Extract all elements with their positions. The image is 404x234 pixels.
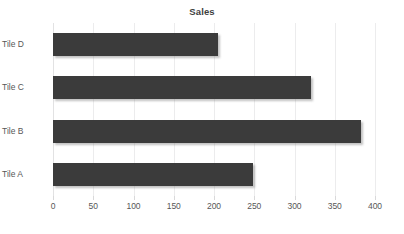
x-axis-label-350: 350: [328, 201, 342, 211]
tick-mark-350: [335, 196, 336, 200]
tick-mark-300: [295, 196, 296, 200]
y-axis-label-tile-c: Tile C: [2, 82, 48, 92]
bar-row: [53, 23, 375, 66]
bar-tile-c[interactable]: [53, 76, 311, 99]
x-axis-tick-labels: 050100150200250300350400: [0, 201, 404, 217]
x-axis-label-200: 200: [207, 201, 221, 211]
sales-bar-chart: Sales Tile DTile CTile BTile A 050100150…: [0, 0, 404, 234]
x-axis-label-400: 400: [368, 201, 382, 211]
y-axis-category-labels: Tile DTile CTile BTile A: [0, 23, 48, 196]
gridline-400: [375, 23, 376, 196]
chart-title: Sales: [0, 6, 404, 17]
bar-tile-a[interactable]: [53, 163, 253, 186]
y-axis-label-tile-b: Tile B: [2, 126, 48, 136]
plot-area: [53, 23, 375, 196]
tick-mark-50: [93, 196, 94, 200]
x-axis-tick-marks: [53, 196, 375, 202]
bar-row: [53, 153, 375, 196]
x-axis-label-300: 300: [287, 201, 301, 211]
x-axis-label-0: 0: [51, 201, 56, 211]
tick-mark-200: [214, 196, 215, 200]
bar-row: [53, 66, 375, 109]
tick-mark-250: [254, 196, 255, 200]
tick-mark-150: [174, 196, 175, 200]
x-axis-label-50: 50: [89, 201, 98, 211]
y-axis-label-tile-a: Tile A: [2, 169, 48, 179]
bar-tile-d[interactable]: [53, 33, 218, 56]
bar-row: [53, 110, 375, 153]
y-axis-label-tile-d: Tile D: [2, 39, 48, 49]
tick-mark-100: [134, 196, 135, 200]
tick-mark-0: [53, 196, 54, 200]
bar-tile-b[interactable]: [53, 120, 361, 143]
x-axis-label-100: 100: [126, 201, 140, 211]
x-axis-label-150: 150: [167, 201, 181, 211]
x-axis-label-250: 250: [247, 201, 261, 211]
tick-mark-400: [375, 196, 376, 200]
